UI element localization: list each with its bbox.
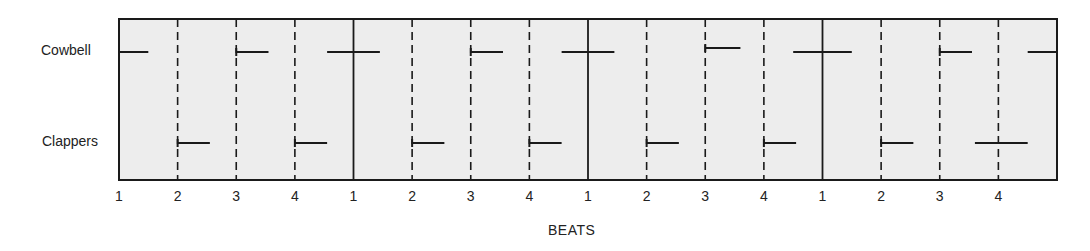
beat-label: 3 [232,188,240,204]
row-label-cowbell: Cowbell [41,42,91,58]
beat-label: 4 [760,188,768,204]
beat-label: 4 [994,188,1002,204]
x-axis-title: BEATS [548,222,595,238]
beat-label: 1 [584,188,592,204]
beat-label: 4 [525,188,533,204]
beat-label: 4 [291,188,299,204]
beat-label: 2 [174,188,182,204]
beat-label: 1 [115,188,123,204]
beat-label: 2 [408,188,416,204]
row-label-clappers: Clappers [42,133,98,149]
beat-label: 2 [643,188,651,204]
beat-timing-diagram: Cowbell Clappers 1234123412341234 BEATS [0,0,1090,251]
beat-label: 2 [877,188,885,204]
beat-label: 3 [467,188,475,204]
beat-label: 3 [936,188,944,204]
beat-label: 1 [350,188,358,204]
beat-label: 3 [701,188,709,204]
timing-grid [0,0,1090,251]
beat-label: 1 [819,188,827,204]
